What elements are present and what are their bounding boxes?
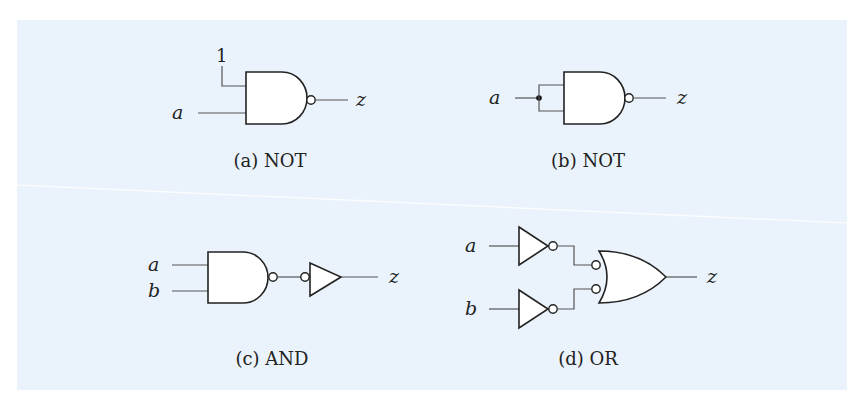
output-z-label: z	[676, 86, 688, 108]
inverter-b-triangle-icon	[519, 290, 548, 328]
input-a-label: a	[489, 86, 500, 108]
subfigure-d: a b z (d) OR	[465, 227, 718, 369]
constant-one-label: 1	[216, 45, 227, 66]
buffer-triangle-icon	[310, 263, 341, 296]
figure-page: 1 a z (a) NOT a z (b) NOT a b	[0, 0, 868, 410]
input-a-label: a	[148, 253, 159, 275]
caption-c: (c) AND	[235, 348, 308, 369]
subfigure-a: 1 a z (a) NOT	[172, 45, 367, 171]
input-b-label: b	[148, 279, 160, 301]
caption-d: (d) OR	[558, 348, 618, 369]
input-b-label: b	[465, 297, 477, 319]
subfigure-c: a b z (c) AND	[148, 252, 400, 369]
tied-inputs-wire	[539, 85, 564, 111]
output-z-label: z	[706, 265, 718, 287]
caption-b: (b) NOT	[551, 150, 625, 171]
nand-gate-icon	[564, 72, 625, 124]
nand-gate-icon	[246, 72, 307, 124]
input-a-label: a	[465, 234, 476, 256]
output-z-label: z	[388, 265, 400, 287]
inversion-bubble-icon	[307, 96, 315, 104]
caption-a: (a) NOT	[233, 150, 306, 171]
input-a-label: a	[172, 101, 183, 123]
inverter-b-output-wire	[557, 289, 591, 309]
or-input-bubble-bottom-icon	[592, 285, 600, 293]
or-input-bubble-top-icon	[592, 261, 600, 269]
scan-artifact-line	[17, 185, 847, 223]
inversion-bubble-icon	[625, 94, 633, 102]
inverter-a-triangle-icon	[519, 227, 548, 265]
inversion-bubble-icon	[269, 273, 277, 281]
constant-one-wire	[222, 66, 246, 86]
inverter-a-output-wire	[557, 246, 591, 265]
subfigure-b: a z (b) NOT	[489, 72, 688, 171]
logic-gates-diagram: 1 a z (a) NOT a z (b) NOT a b	[0, 0, 868, 410]
nand-gate-icon	[208, 252, 268, 303]
input-inversion-bubble-icon	[301, 273, 309, 281]
inverter-b-bubble-icon	[549, 305, 557, 313]
output-z-label: z	[355, 88, 367, 110]
inverter-a-bubble-icon	[549, 242, 557, 250]
or-gate-icon	[599, 251, 666, 303]
